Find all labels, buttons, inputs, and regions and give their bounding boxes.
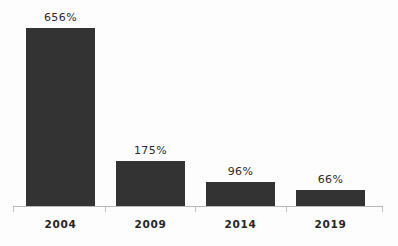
category-label-2019: 2019 xyxy=(296,218,365,230)
bar-value-label: 66% xyxy=(296,173,365,186)
axis-tick-start xyxy=(13,207,14,212)
bar-rect[interactable] xyxy=(116,161,185,207)
axis-tick-0 xyxy=(105,207,106,212)
bar-group-1: 175% xyxy=(116,0,185,207)
category-label-2014: 2014 xyxy=(206,218,275,230)
axis-tick-end xyxy=(382,207,383,212)
bar-value-label: 175% xyxy=(116,144,185,157)
plot-area: 656% 175% 96% 66% xyxy=(0,0,398,207)
category-axis: 2004 2009 2014 2019 xyxy=(0,214,398,246)
axis-tick-2 xyxy=(286,207,287,212)
bar-value-label: 656% xyxy=(26,11,95,24)
bar-group-0: 656% xyxy=(26,0,95,207)
bar-group-2: 96% xyxy=(206,0,275,207)
bar-rect[interactable] xyxy=(296,190,365,207)
bar-rect[interactable] xyxy=(206,182,275,207)
bar-rect[interactable] xyxy=(26,28,95,207)
category-label-2004: 2004 xyxy=(26,218,95,230)
bar-group-3: 66% xyxy=(296,0,365,207)
axis-tick-1 xyxy=(195,207,196,212)
x-axis-line xyxy=(13,206,383,207)
bar-chart: 656% 175% 96% 66% 2004 2009 2014 2019 xyxy=(0,0,398,246)
bar-value-label: 96% xyxy=(206,165,275,178)
category-label-2009: 2009 xyxy=(116,218,185,230)
